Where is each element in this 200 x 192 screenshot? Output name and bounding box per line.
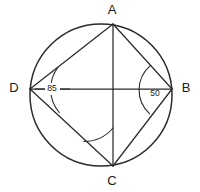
chord-AD bbox=[30, 24, 113, 89]
chord-CB bbox=[113, 89, 172, 166]
angle-arc-at-B bbox=[139, 66, 150, 114]
vertex-label-B: B bbox=[182, 80, 191, 95]
angle-arc-at-C bbox=[84, 128, 113, 141]
angle-label-D: 85 bbox=[47, 83, 57, 93]
vertex-label-C: C bbox=[107, 173, 116, 188]
angle-label-B: 50 bbox=[150, 88, 160, 98]
chord-AB bbox=[113, 24, 172, 89]
geometry-canvas: 85 50 A B C D bbox=[0, 0, 200, 192]
geometry-figure: 85 50 A B C D bbox=[0, 0, 200, 192]
vertex-label-A: A bbox=[108, 2, 117, 17]
chord-DC bbox=[30, 89, 113, 166]
vertex-label-D: D bbox=[9, 80, 18, 95]
